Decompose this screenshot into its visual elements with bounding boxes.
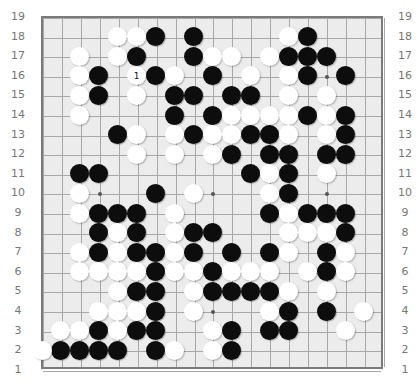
- black-stone: [336, 223, 355, 242]
- black-stone: [184, 47, 203, 66]
- black-stone: [184, 125, 203, 144]
- row-label: 12: [8, 148, 28, 160]
- black-stone: [260, 125, 279, 144]
- black-stone: [336, 145, 355, 164]
- white-stone: [317, 164, 336, 183]
- black-stone: [317, 145, 336, 164]
- black-stone: [279, 184, 298, 203]
- white-stone: [108, 243, 127, 262]
- grid-line-col: [43, 18, 44, 367]
- black-stone: [127, 204, 146, 223]
- white-stone: [184, 184, 203, 203]
- row-label: 6: [395, 266, 415, 278]
- black-stone: [146, 341, 165, 360]
- black-stone: [260, 243, 279, 262]
- white-stone: [165, 243, 184, 262]
- row-label: 11: [395, 168, 415, 180]
- grid-line-col: [62, 18, 63, 367]
- row-label: 15: [395, 89, 415, 101]
- black-stone: [260, 145, 279, 164]
- black-stone: [317, 47, 336, 66]
- white-stone: [279, 243, 298, 262]
- white-stone: [279, 86, 298, 105]
- star-point: [325, 192, 329, 196]
- white-stone: [108, 47, 127, 66]
- black-stone: [146, 243, 165, 262]
- black-stone: [184, 86, 203, 105]
- row-label: 9: [8, 207, 28, 219]
- black-stone: [279, 164, 298, 183]
- black-stone: [317, 302, 336, 321]
- grid-line-col: [384, 18, 385, 367]
- row-label: 7: [8, 246, 28, 258]
- row-label: 15: [8, 89, 28, 101]
- grid-line-row: [43, 18, 381, 19]
- white-stone: [279, 223, 298, 242]
- white-stone: [108, 282, 127, 301]
- star-point: [211, 192, 215, 196]
- black-stone: [298, 66, 317, 85]
- white-stone: [241, 262, 260, 281]
- black-stone: [89, 204, 108, 223]
- black-stone: [317, 243, 336, 262]
- black-stone: [70, 341, 89, 360]
- grid-line-col: [232, 18, 233, 367]
- black-stone: [222, 243, 241, 262]
- row-label: 8: [8, 227, 28, 239]
- white-stone: [127, 86, 146, 105]
- black-stone: [298, 106, 317, 125]
- white-stone: [336, 262, 355, 281]
- white-stone: [222, 47, 241, 66]
- row-label: 16: [8, 70, 28, 82]
- white-stone: [279, 27, 298, 46]
- white-stone: [317, 86, 336, 105]
- black-stone: [184, 223, 203, 242]
- black-stone: [127, 282, 146, 301]
- row-label: 14: [8, 109, 28, 121]
- white-stone: [165, 145, 184, 164]
- black-stone: [279, 321, 298, 340]
- black-stone: [222, 341, 241, 360]
- row-label: 16: [395, 70, 415, 82]
- row-label: 14: [395, 109, 415, 121]
- grid-line-row: [43, 371, 381, 372]
- row-label: 5: [8, 285, 28, 297]
- black-stone: [260, 204, 279, 223]
- black-stone: [260, 282, 279, 301]
- row-label: 10: [8, 187, 28, 199]
- black-stone: [260, 321, 279, 340]
- row-label: 7: [395, 246, 415, 258]
- white-stone: [279, 106, 298, 125]
- black-stone: [336, 66, 355, 85]
- black-stone: [146, 302, 165, 321]
- white-stone: [260, 184, 279, 203]
- row-label: 3: [8, 325, 28, 337]
- white-stone: [222, 125, 241, 144]
- white-stone: [317, 282, 336, 301]
- row-label: 1: [8, 364, 28, 376]
- white-stone: [298, 223, 317, 242]
- black-stone: [89, 341, 108, 360]
- black-stone: [165, 86, 184, 105]
- black-stone: [317, 262, 336, 281]
- black-stone: [241, 125, 260, 144]
- black-stone: [298, 204, 317, 223]
- row-label: 2: [8, 344, 28, 356]
- row-label: 19: [395, 11, 415, 23]
- white-stone: [260, 106, 279, 125]
- black-stone: [184, 27, 203, 46]
- row-label: 2: [395, 344, 415, 356]
- black-stone: [241, 86, 260, 105]
- white-stone: [317, 223, 336, 242]
- star-point: [211, 310, 215, 314]
- white-stone: [70, 47, 89, 66]
- white-stone: [127, 145, 146, 164]
- white-stone: [336, 243, 355, 262]
- white-stone: [203, 47, 222, 66]
- row-label: 10: [395, 187, 415, 199]
- white-stone: [354, 302, 373, 321]
- white-stone: [165, 204, 184, 223]
- white-stone: [203, 125, 222, 144]
- white-stone: [222, 106, 241, 125]
- row-label: 17: [8, 50, 28, 62]
